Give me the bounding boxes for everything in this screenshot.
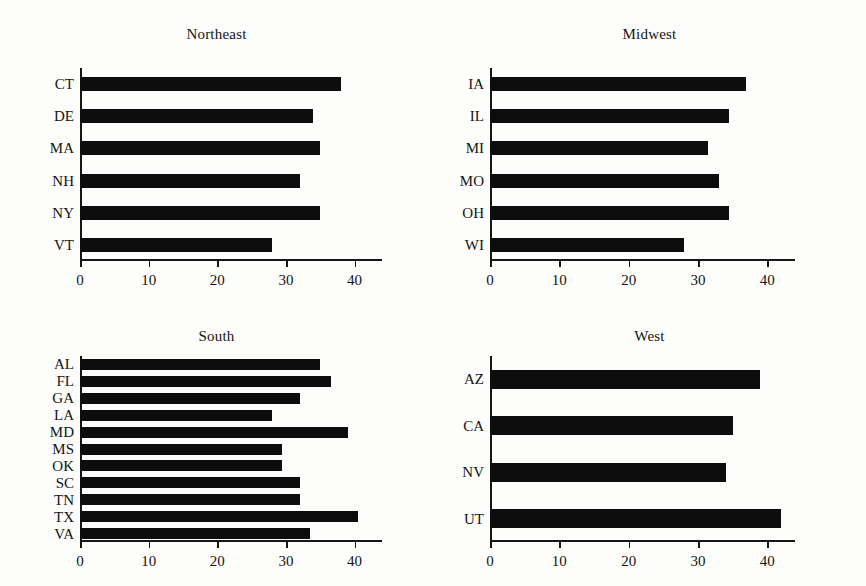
y-tick-label-wi: WI <box>465 236 484 253</box>
y-tick-label-al: AL <box>54 356 74 373</box>
x-tick-label-20: 20 <box>609 553 649 570</box>
x-tick-20 <box>217 542 219 548</box>
x-tick-30 <box>286 261 288 267</box>
x-tick-label-10: 10 <box>539 553 579 570</box>
x-tick-20 <box>217 261 219 267</box>
bar-ok <box>80 460 282 471</box>
bar-tn <box>80 494 300 505</box>
y-tick-labels-midwest: IAILMIMOOHWI <box>433 68 484 261</box>
bar-mo <box>490 174 719 188</box>
bar-va <box>80 528 310 539</box>
y-tick-label-ok: OK <box>52 457 74 474</box>
x-tick-label-0: 0 <box>60 272 100 289</box>
x-tick-10 <box>149 542 151 548</box>
x-tick-label-30: 30 <box>266 272 306 289</box>
y-tick-label-vt: VT <box>54 236 74 253</box>
x-tick-label-20: 20 <box>197 272 237 289</box>
bar-ny <box>80 206 320 220</box>
x-tick-40 <box>767 261 769 267</box>
panel-south: South 010203040 ALFLGALAMDMSOKSCTNTXVA <box>0 320 433 586</box>
x-tick-label-10: 10 <box>129 553 169 570</box>
x-tick-label-0: 0 <box>470 553 510 570</box>
x-tick-label-40: 40 <box>747 272 787 289</box>
bar-wi <box>490 238 684 252</box>
bar-sc <box>80 477 300 488</box>
x-tick-label-30: 30 <box>678 272 718 289</box>
y-tick-label-ma: MA <box>50 140 74 157</box>
y-tick-label-va: VA <box>54 525 74 542</box>
panel-title: Northeast <box>0 26 433 43</box>
bar-chart-figure: Northeast 010203040 CTDEMANHNYVT Midwest… <box>0 0 866 586</box>
y-tick-label-md: MD <box>50 424 74 441</box>
y-axis-line <box>80 68 82 261</box>
y-tick-label-ca: CA <box>463 417 484 434</box>
x-tick-label-20: 20 <box>609 272 649 289</box>
panel-northeast: Northeast 010203040 CTDEMANHNYVT <box>0 20 433 306</box>
bar-ia <box>490 77 746 91</box>
y-tick-label-la: LA <box>54 407 74 424</box>
y-tick-label-ga: GA <box>52 390 74 407</box>
bar-fl <box>80 376 331 387</box>
y-tick-labels-south: ALFLGALAMDMSOKSCTNTXVA <box>20 356 74 542</box>
y-tick-label-il: IL <box>470 108 484 125</box>
y-tick-label-de: DE <box>54 108 74 125</box>
x-tick-40 <box>355 542 357 548</box>
x-tick-30 <box>698 261 700 267</box>
x-tick-20 <box>629 261 631 267</box>
x-tick-label-0: 0 <box>470 272 510 289</box>
x-tick-40 <box>355 261 357 267</box>
bar-oh <box>490 206 729 220</box>
x-axis-line <box>490 540 795 542</box>
bar-ca <box>490 416 733 435</box>
bar-md <box>80 427 348 438</box>
x-tick-30 <box>286 542 288 548</box>
panel-midwest: Midwest 010203040 IAILMIMOOHWI <box>433 20 866 306</box>
y-tick-label-ct: CT <box>55 76 74 93</box>
x-tick-label-0: 0 <box>60 553 100 570</box>
y-tick-label-tn: TN <box>54 491 74 508</box>
x-tick-10 <box>559 261 561 267</box>
bar-il <box>490 109 729 123</box>
x-tick-10 <box>559 542 561 548</box>
bar-ga <box>80 393 300 404</box>
x-tick-10 <box>149 261 151 267</box>
x-axis-line <box>80 540 382 542</box>
bar-de <box>80 109 313 123</box>
y-tick-labels-northeast: CTDEMANHNYVT <box>20 68 74 261</box>
y-tick-label-tx: TX <box>54 508 74 525</box>
x-tick-0 <box>490 542 492 548</box>
bar-az <box>490 370 760 389</box>
bar-tx <box>80 511 358 522</box>
x-axis-line <box>80 259 382 261</box>
plot-area-south: 010203040 <box>80 356 382 542</box>
y-tick-label-ny: NY <box>52 204 74 221</box>
plot-area-northeast: 010203040 <box>80 68 382 261</box>
x-tick-label-20: 20 <box>197 553 237 570</box>
x-tick-label-10: 10 <box>129 272 169 289</box>
bar-ct <box>80 77 341 91</box>
y-axis-line <box>490 68 492 261</box>
y-tick-label-sc: SC <box>56 474 74 491</box>
x-axis-line <box>490 259 795 261</box>
bar-nv <box>490 463 726 482</box>
panel-title: West <box>433 328 866 345</box>
x-tick-40 <box>767 542 769 548</box>
y-tick-label-oh: OH <box>462 204 484 221</box>
x-tick-label-40: 40 <box>335 553 375 570</box>
plot-area-midwest: 010203040 <box>490 68 795 261</box>
y-tick-labels-west: AZCANVUT <box>433 356 484 542</box>
y-tick-label-ia: IA <box>468 76 484 93</box>
bar-ma <box>80 141 320 155</box>
y-tick-label-mo: MO <box>460 172 484 189</box>
panel-west: West 010203040 AZCANVUT <box>433 320 866 586</box>
bar-ut <box>490 509 781 528</box>
x-tick-label-30: 30 <box>678 553 718 570</box>
x-tick-0 <box>490 261 492 267</box>
y-tick-label-nv: NV <box>462 464 484 481</box>
x-tick-20 <box>629 542 631 548</box>
y-tick-label-ut: UT <box>464 510 484 527</box>
x-tick-0 <box>80 261 82 267</box>
y-tick-label-fl: FL <box>56 373 74 390</box>
x-tick-30 <box>698 542 700 548</box>
y-tick-label-ms: MS <box>52 441 74 458</box>
